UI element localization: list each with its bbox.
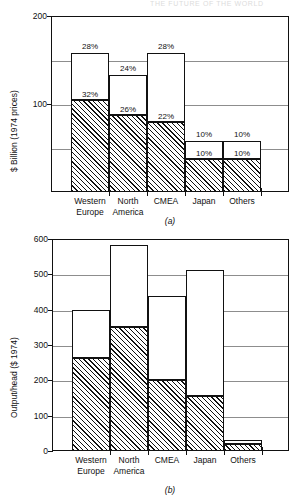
y-tick-label: 0 xyxy=(22,446,48,456)
x-category-label: NorthAmerica xyxy=(112,196,143,217)
bar-segment-hatched xyxy=(224,444,262,451)
x-tick-mark xyxy=(261,188,262,196)
y-tick-mark xyxy=(48,345,53,346)
x-category-label: Japan xyxy=(192,196,215,207)
bar-segment-hatched xyxy=(71,100,109,192)
y-tick-label: 100 xyxy=(21,99,47,109)
y-tick-label: 200 xyxy=(21,11,47,21)
y-tick-label: 500 xyxy=(22,269,48,279)
x-category-label: WesternEurope xyxy=(75,455,107,476)
y-tick-mark xyxy=(48,380,53,381)
x-category-label: Others xyxy=(229,196,255,207)
segment-value-label: 32% xyxy=(82,90,98,99)
chart-a-y-axis-label: $ Billion (1974 prices) xyxy=(9,90,19,172)
bar-segment-hatched xyxy=(109,115,147,192)
gridline xyxy=(53,275,288,276)
bar-segment-hatched xyxy=(110,327,148,451)
bar-segment-open xyxy=(72,310,110,359)
y-tick-label: 100 xyxy=(22,411,48,421)
x-category-label: CMEA xyxy=(154,196,179,207)
bar-segment-hatched xyxy=(148,380,186,451)
y-tick-mark xyxy=(48,451,53,452)
y-tick-mark xyxy=(47,16,52,17)
segment-value-label: 28% xyxy=(82,42,98,51)
segment-value-label: 28% xyxy=(158,42,174,51)
x-category-label: WesternEurope xyxy=(74,196,106,217)
segment-value-label: 10% xyxy=(234,149,250,158)
bar-segment-hatched xyxy=(186,396,224,451)
segment-value-label: 24% xyxy=(120,64,136,73)
segment-value-label: 22% xyxy=(158,112,174,121)
chart-a: $ Billion (1974 prices) 100200 28%32%24%… xyxy=(0,0,302,228)
y-tick-mark xyxy=(48,310,53,311)
x-category-label: Japan xyxy=(193,455,216,466)
bar-segment-hatched xyxy=(147,122,185,192)
bar-segment-hatched xyxy=(223,159,261,192)
bar-segment-open xyxy=(186,270,224,396)
chart-b-y-axis-label: Output/head ($ 1974) xyxy=(9,337,19,418)
y-tick-label: 600 xyxy=(22,234,48,244)
y-tick-mark xyxy=(48,239,53,240)
y-tick-label: 200 xyxy=(22,375,48,385)
y-tick-mark xyxy=(48,274,53,275)
y-tick-mark xyxy=(48,416,53,417)
figure-page: THE FUTURE OF THE WORLD $ Billion (1974 … xyxy=(0,0,302,499)
bar-segment-open xyxy=(148,296,186,380)
x-category-label: CMEA xyxy=(155,455,180,466)
chart-b-caption: (b) xyxy=(165,485,175,495)
chart-b: Output/head ($ 1974) 0100200300400500600… xyxy=(0,228,302,499)
segment-value-label: 10% xyxy=(196,130,212,139)
y-tick-label: 300 xyxy=(22,340,48,350)
x-tick-mark xyxy=(262,447,263,455)
y-tick-label: 400 xyxy=(22,305,48,315)
bar-segment-hatched xyxy=(185,159,223,192)
segment-value-label: 10% xyxy=(196,149,212,158)
bar-segment-open xyxy=(110,245,148,327)
bar-segment-hatched xyxy=(72,358,110,451)
x-category-label: NorthAmerica xyxy=(113,455,144,476)
segment-value-label: 26% xyxy=(120,105,136,114)
segment-value-label: 10% xyxy=(234,130,250,139)
y-tick-mark xyxy=(47,104,52,105)
x-category-label: Others xyxy=(230,455,256,466)
chart-a-caption: (a) xyxy=(165,216,175,226)
